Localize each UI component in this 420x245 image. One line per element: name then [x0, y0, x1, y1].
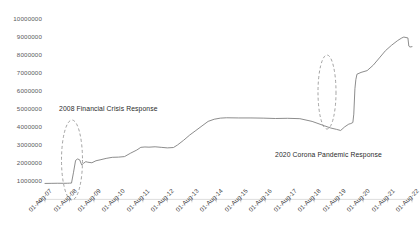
annotation-label-2008: 2008 Financial Crisis Response: [59, 105, 158, 112]
annotation-label-2020: 2020 Corona Pandemic Response: [275, 151, 382, 158]
annotation-ellipse-2020: [318, 55, 336, 129]
